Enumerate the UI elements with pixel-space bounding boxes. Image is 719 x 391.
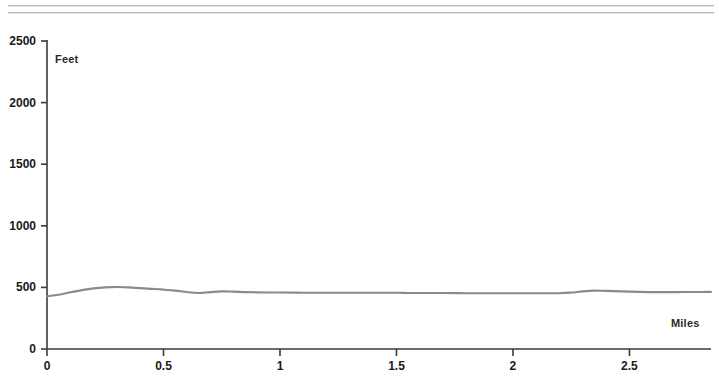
x-tick-label: 1 bbox=[277, 359, 284, 373]
x-tick-label: 0.5 bbox=[155, 359, 172, 373]
elevation-series bbox=[47, 287, 711, 296]
y-tick-label: 1000 bbox=[0, 219, 36, 233]
y-axis-title: Feet bbox=[55, 53, 78, 65]
y-tick-label: 2000 bbox=[0, 96, 36, 110]
y-tick-label: 500 bbox=[0, 280, 36, 294]
x-axis-title: Miles bbox=[671, 317, 700, 329]
y-tick-label: 0 bbox=[0, 342, 36, 356]
x-tick-label: 2 bbox=[510, 359, 517, 373]
x-axis bbox=[47, 349, 711, 356]
elevation-profile-chart: Feet Miles 05001000150020002500 00.511.5… bbox=[0, 0, 719, 391]
chart-canvas bbox=[0, 0, 719, 391]
x-tick-label: 0 bbox=[44, 359, 51, 373]
x-tick-label: 1.5 bbox=[388, 359, 405, 373]
y-tick-label: 1500 bbox=[0, 157, 36, 171]
y-tick-label: 2500 bbox=[0, 34, 36, 48]
y-axis bbox=[41, 40, 47, 349]
x-tick-label: 2.5 bbox=[621, 359, 638, 373]
